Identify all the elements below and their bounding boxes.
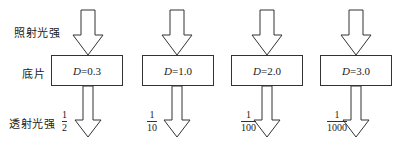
density-variable: D [253,65,261,77]
transmission-fraction-3: 1100 [241,110,256,133]
density-variable: D [342,65,350,77]
density-variable: D [73,65,81,77]
transmission-fraction-4: 11000 [327,110,347,133]
incident-arrow-icon [73,10,103,55]
fraction-numerator: 1 [62,110,67,120]
fraction-numerator: 1 [246,110,251,120]
incident-arrow-icon [252,10,282,55]
fraction-numerator: 1 [335,110,340,120]
density-variable: D [164,65,172,77]
incident-arrow-icon [341,10,371,55]
fraction-denominator: 1000 [327,123,347,133]
fraction-denominator: 100 [241,123,256,133]
transmitted-arrow-icon [254,86,280,137]
transmission-fraction-1: 12 [62,110,67,133]
film-box-4: D=3.0 [320,55,392,86]
density-value: =1.0 [172,65,192,77]
film-box-3: D=2.0 [231,55,303,86]
transmitted-arrow-icon [75,86,101,137]
film-box-2: D=1.0 [142,55,214,86]
density-value: =0.3 [81,65,101,77]
transmitted-arrow-icon [164,86,190,137]
film-box-1: D=0.3 [51,55,123,86]
fraction-denominator: 2 [62,123,67,133]
incident-arrow-icon [162,10,192,55]
fraction-numerator: 1 [150,110,155,120]
density-value: =2.0 [261,65,281,77]
transmission-fraction-2: 110 [147,110,157,133]
fraction-denominator: 10 [147,123,157,133]
density-value: =3.0 [350,65,370,77]
